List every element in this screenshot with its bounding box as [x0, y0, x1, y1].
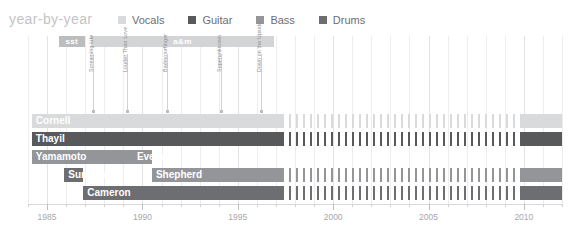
axis-tick-minor: [66, 204, 67, 207]
member-name-label: Cameron: [83, 186, 130, 200]
axis-tick-major: [142, 204, 143, 210]
axis-tick-minor: [123, 204, 124, 207]
axis-tick-minor: [448, 204, 449, 207]
legend-swatch-icon: [118, 16, 126, 24]
legend-label: Drums: [333, 14, 365, 26]
member-name-label: Yamamoto: [32, 150, 87, 164]
timeline-bar[interactable]: [522, 114, 562, 128]
legend-swatch-icon: [188, 16, 196, 24]
timeline-bar[interactable]: [522, 186, 562, 200]
axis-tick-minor: [181, 204, 182, 207]
member-name-label: Everman: [133, 150, 179, 164]
milestone-dot-icon: [260, 110, 263, 113]
axis-tick-minor: [85, 204, 86, 207]
gridline: [28, 36, 29, 204]
milestone-label: Louder Than Love: [122, 27, 128, 72]
milestone-marker[interactable]: Louder Than Love: [127, 54, 128, 112]
axis-tick-major: [47, 204, 48, 210]
legend-swatch-icon: [319, 16, 327, 24]
legend-item-drums[interactable]: Drums: [319, 14, 365, 26]
member-name-label: Thayil: [32, 132, 65, 146]
milestone-label: Screaming Life: [88, 35, 94, 72]
axis-tick-label: 2000: [324, 212, 343, 222]
axis-tick-major: [238, 204, 239, 210]
legend-item-guitar[interactable]: Guitar: [188, 14, 232, 26]
axis-tick-minor: [28, 204, 29, 207]
legend-label: Vocals: [132, 14, 164, 26]
legend-item-bass[interactable]: Bass: [256, 14, 294, 26]
x-axis: 198519901995200020052010: [28, 204, 562, 228]
axis-tick-minor: [543, 204, 544, 207]
axis-tick-minor: [486, 204, 487, 207]
milestone-dot-icon: [126, 110, 129, 113]
timeline-bar[interactable]: [522, 132, 562, 146]
label-era-name: a&m: [173, 37, 191, 46]
axis-tick-label: 1990: [133, 212, 152, 222]
plot-area: ssta&mScreaming LifeLouder Than LoveBadm…: [28, 36, 562, 204]
axis-tick-minor: [390, 204, 391, 207]
milestone-marker[interactable]: Superunknown: [221, 54, 222, 112]
axis-tick-minor: [409, 204, 410, 207]
milestone-label: Down on the Upside: [256, 22, 262, 72]
timeline-bar[interactable]: [282, 168, 522, 182]
milestone-marker[interactable]: Screaming Life: [93, 54, 94, 112]
chart-canvas: year-by-year VocalsGuitarBassDrums ssta&…: [0, 0, 569, 228]
axis-tick-minor: [104, 204, 105, 207]
label-era-name: sst: [66, 37, 78, 46]
axis-tick-minor: [352, 204, 353, 207]
axis-tick-label: 2010: [514, 212, 533, 222]
axis-tick-label: 1995: [228, 212, 247, 222]
axis-tick-minor: [505, 204, 506, 207]
axis-tick-minor: [276, 204, 277, 207]
axis-tick-label: 2005: [419, 212, 438, 222]
axis-tick-minor: [314, 204, 315, 207]
axis-tick-major: [333, 204, 334, 210]
axis-tick-minor: [371, 204, 372, 207]
axis-tick-minor: [467, 204, 468, 207]
axis-tick-major: [429, 204, 430, 210]
timeline-bar[interactable]: [32, 132, 282, 146]
axis-tick-minor: [295, 204, 296, 207]
timeline-bar[interactable]: [282, 114, 522, 128]
milestone-dot-icon: [92, 110, 95, 113]
timeline-bar[interactable]: [282, 132, 522, 146]
milestone-dot-icon: [166, 110, 169, 113]
axis-tick-minor: [162, 204, 163, 207]
page-title: year-by-year: [9, 11, 92, 27]
legend-label: Bass: [270, 14, 294, 26]
milestone-marker[interactable]: Down on the Upside: [261, 54, 262, 112]
axis-tick-minor: [219, 204, 220, 207]
timeline-bar[interactable]: [282, 186, 522, 200]
label-era-bar[interactable]: a&m: [91, 36, 274, 47]
milestone-marker[interactable]: Badmotorfinger: [167, 54, 168, 112]
milestone-label: Badmotorfinger: [162, 34, 168, 72]
axis-tick-major: [524, 204, 525, 210]
axis-tick-minor: [562, 204, 563, 207]
legend-label: Guitar: [202, 14, 232, 26]
label-era-bar[interactable]: sst: [59, 36, 86, 47]
member-name-label: Shepherd: [152, 168, 202, 182]
axis-tick-minor: [257, 204, 258, 207]
chart-legend: VocalsGuitarBassDrums: [118, 13, 389, 27]
gridline: [562, 36, 563, 204]
axis-tick-minor: [200, 204, 201, 207]
milestone-dot-icon: [220, 110, 223, 113]
member-name-label: Cornell: [32, 114, 70, 128]
legend-item-vocals[interactable]: Vocals: [118, 14, 164, 26]
timeline-bar[interactable]: [522, 168, 562, 182]
milestone-label: Superunknown: [216, 35, 222, 72]
axis-tick-label: 1985: [38, 212, 57, 222]
member-name-label: Sundquist: [64, 168, 117, 182]
